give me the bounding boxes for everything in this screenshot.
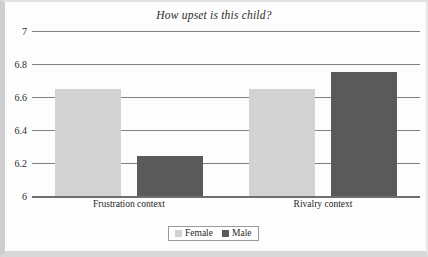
x-axis-label-rivalry-context: Rivalry context — [294, 199, 353, 209]
chart-page: How upset is this child? 66.26.46.66.87 … — [0, 0, 428, 257]
legend-swatch-female-icon — [175, 230, 182, 237]
plot-area: 66.26.46.66.87 — [32, 31, 420, 196]
bar-chart: How upset is this child? 66.26.46.66.87 … — [0, 0, 428, 257]
y-axis-tick-label: 6.8 — [15, 59, 28, 70]
legend-label-female: Female — [185, 229, 213, 239]
y-axis-tick-label: 6.4 — [15, 125, 28, 136]
legend-entry-female[interactable]: Female — [175, 229, 213, 239]
x-axis-label-frustration-context: Frustration context — [93, 199, 165, 209]
legend-entry-male[interactable]: Male — [222, 229, 252, 239]
y-axis-tick-label: 7 — [22, 26, 27, 37]
bar-female-frustration-context — [55, 89, 121, 196]
chart-title: How upset is this child? — [0, 9, 428, 21]
bar-female-rivalry-context — [249, 89, 315, 196]
chart-legend: Female Male — [168, 226, 259, 241]
y-axis-tick-label: 6 — [22, 191, 27, 202]
bars-group — [32, 31, 420, 196]
y-axis-tick-label: 6.6 — [15, 92, 28, 103]
x-axis-labels: Frustration contextRivalry context — [32, 199, 420, 215]
bar-male-frustration-context — [137, 156, 203, 196]
y-axis-tick-label: 6.2 — [15, 158, 28, 169]
legend-label-male: Male — [232, 229, 252, 239]
legend-swatch-male-icon — [222, 230, 229, 237]
bar-male-rivalry-context — [331, 72, 397, 196]
gridline-6: 6 — [32, 196, 420, 198]
